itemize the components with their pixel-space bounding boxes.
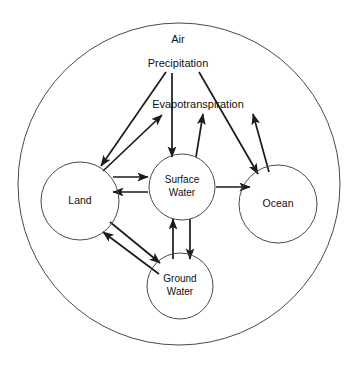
node-label-land: Land	[68, 194, 92, 206]
node-ground-water[interactable]: GroundWater	[147, 253, 213, 319]
diagram-canvas: LandSurfaceWaterOceanGroundWater AirPrec…	[0, 0, 351, 367]
node-ocean[interactable]: Ocean	[239, 165, 317, 243]
flow-arrow-land-to-evapotranspiration	[103, 115, 162, 171]
free-label-group: AirPrecipitationEvapotranspiration	[148, 33, 244, 110]
flow-arrow-surface-water-to-evapotranspiration	[196, 114, 203, 157]
node-land[interactable]: Land	[41, 162, 119, 240]
node-label-ocean: Ocean	[263, 197, 294, 209]
label-evapotranspiration: Evapotranspiration	[152, 98, 244, 110]
label-precipitation: Precipitation	[148, 57, 209, 69]
hydrologic-cycle-diagram: LandSurfaceWaterOceanGroundWater AirPrec…	[0, 0, 351, 367]
node-group: LandSurfaceWaterOceanGroundWater	[41, 154, 317, 319]
node-label-surface-water: Surface	[165, 174, 200, 185]
node-label-surface-water: Water	[169, 187, 196, 198]
node-label-ground-water: Water	[167, 286, 194, 297]
flow-arrow-precipitation-to-ocean	[199, 72, 258, 174]
label-air: Air	[171, 33, 185, 45]
node-surface-water[interactable]: SurfaceWater	[149, 154, 215, 220]
flow-arrow-precipitation-to-land	[101, 72, 166, 166]
flow-arrow-ocean-to-evapotranspiration	[253, 114, 269, 172]
node-label-ground-water: Ground	[163, 273, 196, 284]
